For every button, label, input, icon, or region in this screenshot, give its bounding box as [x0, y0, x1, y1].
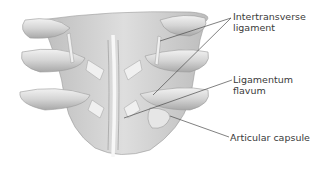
leader-capsule — [170, 116, 229, 137]
label-articular-capsule: Articular capsule — [230, 132, 310, 143]
label-intertransverse-ligament: Intertransverse ligament — [233, 11, 306, 33]
label-line: Intertransverse — [233, 11, 306, 22]
label-line: flavum — [233, 85, 293, 96]
label-line: Ligamentum — [233, 74, 293, 85]
label-line: Articular capsule — [230, 132, 310, 143]
label-line: ligament — [233, 22, 306, 33]
label-ligamentum-flavum: Ligamentum flavum — [233, 74, 293, 96]
